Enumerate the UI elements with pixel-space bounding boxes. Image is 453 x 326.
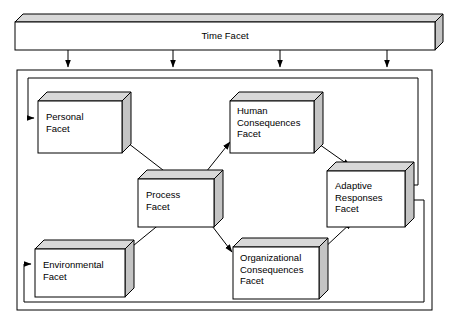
environmental-facet-front-face (35, 249, 125, 297)
box-organizational-consequences-facet[interactable] (233, 238, 328, 299)
human-consequences-facet-side-face (314, 92, 323, 153)
box-personal-facet[interactable] (38, 92, 131, 153)
process-facet-side-face (214, 170, 223, 227)
box-environmental-facet[interactable] (35, 240, 134, 297)
personal-facet-top-face (38, 92, 131, 101)
human-consequences-facet-top-face (230, 92, 323, 101)
diagram-svg (0, 0, 453, 326)
adaptive-responses-facet-side-face (405, 162, 414, 227)
environmental-facet-top-face (35, 240, 134, 249)
organizational-consequences-facet-top-face (233, 238, 328, 247)
box-process-facet[interactable] (138, 170, 223, 227)
time-arrows-group (68, 50, 387, 67)
time-facet-label: Time Facet (15, 30, 435, 42)
human-consequences-facet-front-face (230, 101, 314, 153)
diagram-canvas: Time Facet Personal Facet Human Conseque… (0, 0, 453, 326)
personal-facet-front-face (38, 101, 122, 153)
adaptive-responses-facet-front-face (327, 171, 405, 227)
personal-facet-side-face (122, 92, 131, 153)
process-to-human-consequences (206, 142, 230, 172)
organizational-consequences-facet-side-face (319, 238, 328, 299)
process-facet-top-face (138, 170, 223, 179)
process-facet-front-face (138, 179, 214, 227)
time-facet-top-face (15, 14, 443, 22)
organizational-consequences-facet-front-face (233, 247, 319, 299)
environmental-facet-side-face (125, 240, 134, 297)
box-adaptive-responses-facet[interactable] (327, 162, 414, 227)
adaptive-responses-facet-top-face (327, 162, 414, 171)
box-human-consequences-facet[interactable] (230, 92, 323, 153)
